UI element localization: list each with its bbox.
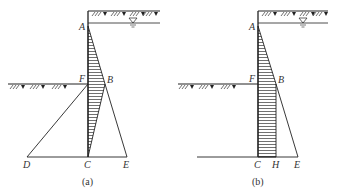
- label-B: B: [278, 74, 284, 85]
- line-F-D: [27, 84, 88, 157]
- label-C: C: [84, 159, 91, 170]
- water-level-icon: [299, 18, 307, 27]
- hatched-pressure-region: [88, 26, 105, 157]
- label-E: E: [293, 159, 300, 170]
- label-F: F: [78, 73, 86, 84]
- line-B-E: [276, 84, 298, 157]
- panel-a: A F B D C E (a): [8, 11, 160, 188]
- label-H: H: [271, 159, 280, 170]
- label-A: A: [248, 21, 256, 32]
- hatched-pressure-region: [258, 26, 276, 157]
- label-A: A: [78, 21, 86, 32]
- label-E: E: [122, 159, 129, 170]
- line-B-E: [105, 84, 127, 157]
- label-D: D: [22, 159, 31, 170]
- label-F: F: [248, 73, 256, 84]
- panel-b: A F B C H E (b): [178, 11, 328, 188]
- caption-b: (b): [252, 176, 264, 188]
- label-C: C: [254, 159, 261, 170]
- label-B: B: [107, 74, 113, 85]
- caption-a: (a): [82, 176, 93, 188]
- ground-hatch-icon: [179, 85, 236, 89]
- ground-hatch-icon: [10, 85, 67, 89]
- water-level-icon: [129, 18, 137, 27]
- ground-hatch-icon: [92, 12, 158, 16]
- ground-hatch-icon: [262, 12, 328, 16]
- earth-pressure-diagram: A F B D C E (a) A F: [0, 0, 337, 193]
